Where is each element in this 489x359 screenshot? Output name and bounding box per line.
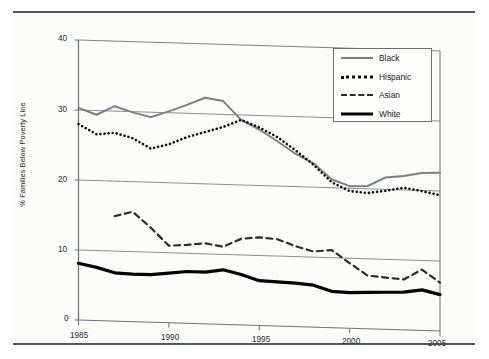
legend-swatch-black xyxy=(341,53,373,63)
line-chart-figure: % Families Below Poverty Line 40 30 20 1… xyxy=(0,0,489,359)
gridline-10 xyxy=(79,250,441,261)
y-tick-40: 40 xyxy=(58,34,67,43)
legend-label-black: Black xyxy=(379,53,399,63)
y-tick-20: 20 xyxy=(58,175,67,184)
legend-swatch-white xyxy=(341,109,373,119)
figure-page: % Families Below Poverty Line 40 30 20 1… xyxy=(0,0,489,359)
legend-swatch-asian xyxy=(341,90,373,100)
legend-label-hispanic: Hispanic xyxy=(379,72,411,82)
series-line-white xyxy=(79,263,441,294)
y-tick-30: 30 xyxy=(58,105,67,114)
gridline-20 xyxy=(79,180,441,191)
legend-item-hispanic: Hispanic xyxy=(334,68,431,87)
legend-item-asian: Asian xyxy=(334,86,431,105)
chart-legend: Black Hispanic Asian White xyxy=(333,48,432,122)
x-tick-1995: 1995 xyxy=(252,335,270,344)
y-tick-0: 0 xyxy=(64,314,69,323)
x-tick-1985: 1985 xyxy=(70,331,88,340)
legend-label-white: White xyxy=(379,109,400,119)
x-tick-2005: 2005 xyxy=(428,339,446,348)
legend-label-asian: Asian xyxy=(379,90,400,100)
legend-item-black: Black xyxy=(334,49,431,68)
x-tick-1990: 1990 xyxy=(161,333,179,342)
y-axis-title: % Families Below Poverty Line xyxy=(18,75,27,235)
legend-swatch-hispanic xyxy=(341,72,373,82)
y-tick-10: 10 xyxy=(58,245,67,254)
x-tick-2000: 2000 xyxy=(342,337,360,346)
legend-item-white: White xyxy=(334,105,431,124)
series-line-hispanic xyxy=(79,120,441,195)
